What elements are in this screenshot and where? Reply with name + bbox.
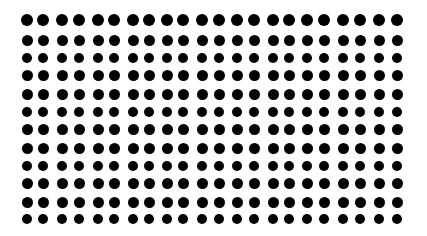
dot (38, 35, 49, 46)
dot (109, 70, 120, 81)
dot (249, 161, 259, 171)
dot (338, 178, 349, 189)
dot (302, 70, 313, 81)
dot (128, 197, 139, 208)
dot (128, 178, 139, 189)
dot (22, 70, 33, 81)
dot (214, 89, 225, 100)
dot (284, 214, 294, 224)
dot (57, 124, 68, 135)
dot (128, 35, 139, 46)
dot (109, 214, 119, 224)
dot (22, 197, 33, 208)
dot (93, 89, 104, 100)
dot (338, 214, 348, 224)
dot (74, 89, 85, 100)
dot (268, 70, 279, 81)
dot (178, 124, 189, 135)
dot (74, 124, 85, 135)
dot (319, 70, 330, 81)
dot (355, 124, 366, 135)
dot (267, 14, 279, 26)
dot (57, 214, 67, 224)
dot (93, 161, 103, 171)
dot (391, 14, 403, 26)
dot (22, 35, 33, 46)
dot (338, 70, 349, 81)
dot (284, 35, 295, 46)
dot (108, 14, 120, 26)
dot (232, 178, 243, 189)
dot (374, 107, 384, 117)
dot (197, 124, 208, 135)
dot (284, 53, 294, 63)
dot (249, 143, 260, 154)
dot (392, 35, 403, 46)
dot (302, 161, 312, 171)
dot (232, 124, 243, 135)
dot (177, 14, 189, 26)
dot (392, 89, 403, 100)
dot (231, 14, 243, 26)
dot (232, 35, 243, 46)
dot (373, 14, 385, 26)
dot (392, 107, 402, 117)
dot (197, 35, 208, 46)
dot (214, 53, 224, 63)
dot (249, 89, 260, 100)
dot (232, 89, 243, 100)
dot (128, 161, 138, 171)
dot (214, 197, 225, 208)
dot (374, 89, 385, 100)
dot (374, 161, 384, 171)
dot (74, 35, 85, 46)
dot (197, 178, 208, 189)
dot (128, 107, 138, 117)
dot (93, 214, 103, 224)
dot (144, 70, 155, 81)
dot (284, 178, 295, 189)
dot (392, 197, 403, 208)
dot (109, 161, 119, 171)
dot (318, 14, 330, 26)
dot (197, 70, 208, 81)
dot (74, 161, 84, 171)
dot (38, 197, 49, 208)
dot (197, 89, 208, 100)
dot (301, 14, 313, 26)
dot (355, 35, 366, 46)
dot (162, 35, 173, 46)
dot (214, 35, 225, 46)
dot (22, 89, 33, 100)
dot (392, 161, 402, 171)
dot (338, 107, 348, 117)
dot (392, 214, 402, 224)
dot (268, 214, 278, 224)
dot (374, 214, 384, 224)
dot (284, 107, 294, 117)
dot (338, 53, 348, 63)
dot (337, 14, 349, 26)
dot (197, 143, 208, 154)
dot (355, 178, 366, 189)
dot (162, 161, 172, 171)
dot (214, 161, 224, 171)
dot (74, 178, 85, 189)
dot (38, 161, 48, 171)
dot (109, 178, 120, 189)
dot (38, 178, 49, 189)
dot (57, 53, 67, 63)
dot (144, 197, 155, 208)
dot (93, 124, 104, 135)
dot (319, 143, 330, 154)
dot (38, 143, 49, 154)
dot (161, 14, 173, 26)
dot (232, 197, 243, 208)
dot (128, 89, 139, 100)
dot (162, 214, 172, 224)
dot (109, 107, 119, 117)
dot (214, 107, 224, 117)
dot (302, 53, 312, 63)
dot (197, 161, 207, 171)
dot (128, 70, 139, 81)
